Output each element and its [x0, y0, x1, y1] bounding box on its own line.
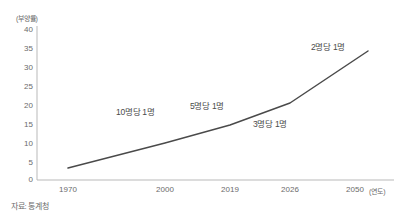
chart-container: (부양률) 40 35 30 25 20 15 10 5 0 1970 2000…	[0, 0, 403, 219]
y-tick-label-20: 20	[13, 101, 33, 110]
y-tick-label-15: 15	[13, 120, 33, 129]
y-tick-label-30: 30	[13, 63, 33, 72]
y-tick-label-10: 10	[13, 139, 33, 148]
x-tick-label-2019: 2019	[221, 185, 239, 194]
source-note: 자료: 통계청	[11, 200, 48, 211]
y-tick-label-25: 25	[13, 82, 33, 91]
annotation-2-per-1: 2명당 1명	[311, 40, 345, 52]
x-tick-label-2000: 2000	[156, 185, 174, 194]
x-tick-label-1970: 1970	[59, 185, 77, 194]
x-tick-label-2050: 2050	[346, 185, 364, 194]
y-tick-label-0: 0	[13, 175, 33, 184]
annotation-10-per-1: 10명당 1명	[116, 105, 154, 117]
y-tick-label-35: 35	[13, 44, 33, 53]
annotation-3-per-1: 3명당 1명	[253, 117, 287, 129]
y-tick-label-40: 40	[13, 25, 33, 34]
y-tick-label-5: 5	[13, 158, 33, 167]
x-tick-label-2026: 2026	[281, 185, 299, 194]
y-axis-unit-label: (부양률)	[16, 13, 38, 23]
annotation-5-per-1: 5명당 1명	[190, 99, 224, 111]
x-axis-unit-label: (연도)	[369, 186, 386, 196]
